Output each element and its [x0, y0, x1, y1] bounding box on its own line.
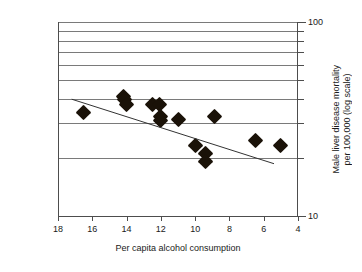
y-tick-60 [298, 65, 304, 66]
gridline-80 [58, 41, 298, 42]
x-axis-title: Per capita alcohol consumption [58, 243, 298, 253]
y-tick-80 [298, 41, 304, 42]
x-tick-4 [298, 216, 299, 221]
y-axis-label-100: 100 [308, 17, 323, 27]
y-tick-90 [298, 31, 304, 32]
y-axis-title-text: Male liver disease mortality per 100,000… [331, 65, 353, 174]
x-tick-label-4: 4 [284, 224, 312, 234]
x-tick-label-10: 10 [181, 224, 209, 234]
data-point [273, 138, 289, 154]
liver-disease-scatter-chart: 1816141210864 100 10 Per capita alcohol … [0, 0, 362, 272]
gridline-90 [58, 31, 298, 32]
axis-line-left [58, 22, 59, 216]
x-tick-label-18: 18 [44, 224, 72, 234]
gridline-40 [58, 99, 298, 100]
x-tick-16 [92, 216, 93, 221]
y-tick-50 [298, 80, 304, 81]
data-point [76, 105, 92, 121]
gridline-70 [58, 52, 298, 53]
x-tick-6 [264, 216, 265, 221]
x-tick-label-12: 12 [147, 224, 175, 234]
x-tick-8 [229, 216, 230, 221]
data-point [170, 112, 186, 128]
axis-line-bottom [58, 216, 298, 217]
y-tick-40 [298, 99, 304, 100]
y-axis-title: Male liver disease mortality per 100,000… [330, 22, 354, 216]
x-tick-label-6: 6 [250, 224, 278, 234]
data-point [206, 109, 222, 125]
x-tick-12 [161, 216, 162, 221]
gridline-100 [58, 22, 298, 23]
x-tick-label-8: 8 [215, 224, 243, 234]
plot-area [58, 22, 298, 216]
gridline-60 [58, 65, 298, 66]
data-point [247, 133, 263, 149]
x-tick-14 [127, 216, 128, 221]
y-tick-20 [298, 158, 304, 159]
x-tick-10 [195, 216, 196, 221]
y-axis-label-10: 10 [308, 211, 318, 221]
gridline-50 [58, 80, 298, 81]
y-tick-70 [298, 52, 304, 53]
y-tick-100 [298, 22, 306, 23]
y-tick-30 [298, 123, 304, 124]
x-tick-18 [58, 216, 59, 221]
x-tick-label-14: 14 [113, 224, 141, 234]
y-tick-10 [298, 216, 306, 217]
gridline-20 [58, 158, 298, 159]
x-tick-label-16: 16 [78, 224, 106, 234]
